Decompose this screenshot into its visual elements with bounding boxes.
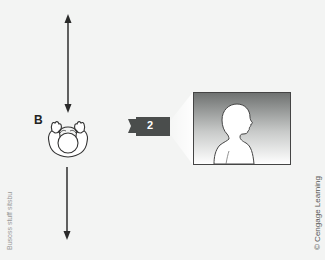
shot-frame [194,93,291,165]
camera-diagram: B 2 © Cengage Learning Busoss stuff sits… [0,0,325,260]
movement-arrow-up-down [65,14,72,113]
camera-view-cone [170,92,193,165]
subject-label: B [34,113,43,127]
margin-text: Busoss stuff sitsbu [6,192,13,250]
camera-number-label: 2 [147,119,153,131]
copyright-credit: © Cengage Learning [313,176,322,250]
movement-arrow-down [64,167,71,240]
diagram-canvas [0,0,325,260]
person-top-view-icon [49,122,88,157]
